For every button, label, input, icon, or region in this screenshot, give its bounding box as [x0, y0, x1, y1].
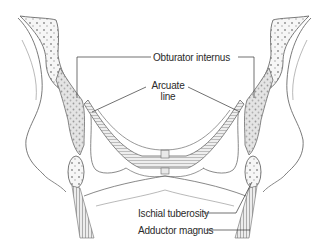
label-adductor-magnus: Adductor magnus — [138, 225, 213, 236]
arcuate-leader-left — [92, 87, 146, 112]
obturator-leader-right — [238, 57, 254, 98]
left-pelvis — [18, 16, 126, 238]
levator-ani-sling — [84, 100, 246, 206]
label-ischial-tuberosity: Ischial tuberosity — [138, 208, 209, 219]
label-arcuate-line: Arcuate line — [150, 80, 186, 102]
obturator-leader-left — [77, 57, 151, 98]
pelvic-floor-diagram: Obturator internus Arcuate line Ischial … — [0, 0, 329, 246]
label-arcuate-line-2: line — [150, 91, 186, 102]
label-obturator-internus: Obturator internus — [153, 52, 230, 63]
label-arcuate-line-1: Arcuate — [150, 80, 186, 91]
right-pelvis — [203, 16, 311, 238]
arcuate-leader-right — [188, 87, 240, 112]
